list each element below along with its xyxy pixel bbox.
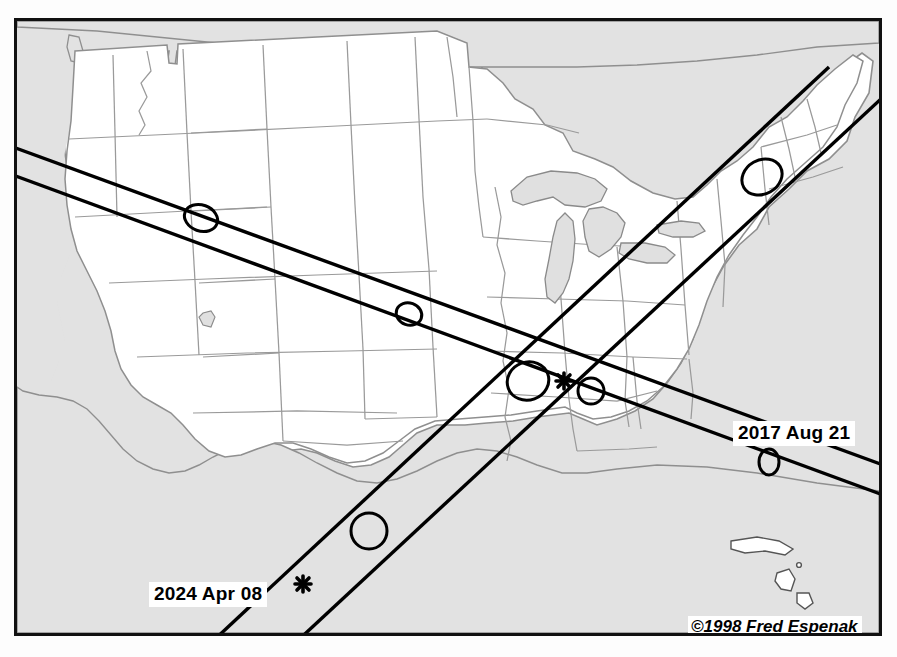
map-canvas [17, 21, 879, 633]
eclipse-2024-label: 2024 Apr 08 [149, 582, 267, 607]
lake-ontario [657, 221, 705, 237]
asterisk-greatest-eclipse-2024 [295, 576, 311, 592]
map-frame: 2017 Aug 21 2024 Apr 08 ©1998 Fred Espen… [14, 18, 882, 636]
bahamas-islet [797, 563, 802, 568]
eclipse-2017-label: 2017 Aug 21 [733, 421, 855, 446]
eclipse-map-figure: 2017 Aug 21 2024 Apr 08 ©1998 Fred Espen… [0, 0, 897, 657]
copyright-credit: ©1998 Fred Espenak [688, 616, 862, 636]
asterisk-path-crossing [556, 373, 572, 389]
